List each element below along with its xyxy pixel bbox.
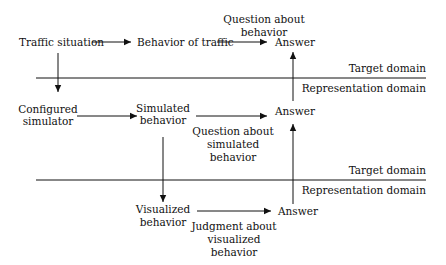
configured-simulator-line2: simulator <box>23 115 75 127</box>
configured-simulator-line1: Configured <box>18 103 78 115</box>
domain-diagram: Traffic situation Behavior of traffic Qu… <box>0 0 446 265</box>
representation-domain-label-2: Representation domain <box>302 184 427 196</box>
judgment-line1: Judgment about <box>190 220 277 232</box>
representation-domain-label-1: Representation domain <box>302 82 427 94</box>
question-about-behavior-line1: Question about <box>223 13 305 25</box>
judgment-line3: behavior <box>211 246 259 258</box>
simulated-behavior-line2: behavior <box>140 114 188 126</box>
question-simulated-line2: simulated <box>207 138 260 150</box>
answer-label-3: Answer <box>277 205 319 217</box>
answer-label-2: Answer <box>274 105 316 117</box>
target-domain-label-2: Target domain <box>349 164 427 176</box>
visualized-behavior-line1: Visualized <box>135 203 191 215</box>
simulated-behavior-line1: Simulated <box>136 102 190 114</box>
judgment-line2: visualized <box>207 233 261 245</box>
traffic-situation-label: Traffic situation <box>19 36 104 48</box>
answer-label-1: Answer <box>274 36 316 48</box>
visualized-behavior-line2: behavior <box>140 216 188 228</box>
target-domain-label-1: Target domain <box>349 62 427 74</box>
question-simulated-line3: behavior <box>210 151 258 163</box>
question-simulated-line1: Question about <box>192 125 274 137</box>
